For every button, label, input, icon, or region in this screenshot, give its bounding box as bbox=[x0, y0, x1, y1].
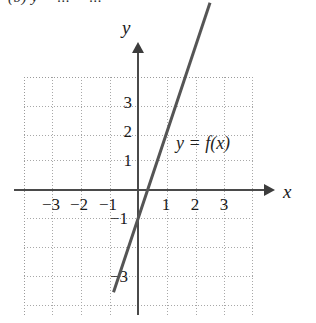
function-label-text: y = f(x) bbox=[176, 133, 230, 153]
coordinate-plane: x y −3 −2 −1 1 2 3 3 2 1 −1 −3 y = f(x) bbox=[0, 0, 316, 323]
math-figure: (b) y = ... = ... x y −3 bbox=[0, 0, 316, 323]
function-label: y = f(x) bbox=[176, 133, 230, 154]
function-line bbox=[0, 0, 316, 323]
